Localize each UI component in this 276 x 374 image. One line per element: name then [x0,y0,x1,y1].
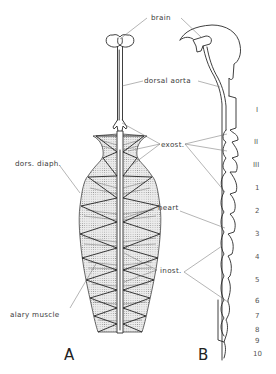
segment-abdominal-7: 7 [255,312,259,320]
segment-abdominal-8: 8 [255,326,259,334]
heart-tube-a [117,131,123,333]
label-dorsal-aorta: dorsal aorta [144,76,191,85]
segment-abdominal-3: 3 [255,230,259,238]
segment-thoracic-2: II [254,138,258,146]
label-exost: exost. [161,140,184,149]
segment-thoracic-1: I [256,106,258,114]
label-dors-diaph: dors. diaph. [15,159,61,168]
segment-abdominal-4: 4 [255,253,260,261]
label-alary-muscle: alary muscle [10,310,60,319]
segment-abdominal-5: 5 [255,276,259,284]
segment-numbers: I II III 1 2 3 4 5 6 7 8 9 10 [253,106,262,358]
segment-abdominal-2: 2 [255,207,259,215]
insect-dorsal-vessel-diagram: A B [0,0,276,374]
dorsal-aorta-tube-a [113,47,127,131]
panel-label-b: B [198,346,208,364]
segment-abdominal-6: 6 [255,297,260,305]
panel-label-a: A [64,346,75,364]
segment-abdominal-9: 9 [255,337,259,345]
brain-shape [106,35,134,47]
label-brain: brain [151,13,171,22]
body-wall-segments [224,96,238,358]
segment-abdominal-1: 1 [255,184,259,192]
label-inost: inost. [160,266,182,275]
brain-lateral [193,36,211,52]
dorsal-aorta-lateral [203,46,226,360]
label-heart: heart [158,203,179,212]
segment-thoracic-3: III [253,161,259,169]
segment-abdominal-10: 10 [253,350,262,358]
